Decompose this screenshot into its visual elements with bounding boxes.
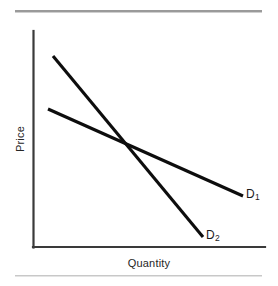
curve-label-d2-base: D [206, 228, 215, 242]
curve-label-d1-base: D [246, 187, 255, 201]
curve-label-d1-subscript: 1 [255, 192, 260, 202]
demand-curve-d2 [53, 56, 203, 237]
curve-label-d2-subscript: 2 [215, 233, 220, 243]
curve-label-d1: D1 [246, 187, 259, 201]
chart-plot-area [0, 0, 278, 286]
curve-label-d2: D2 [206, 228, 219, 242]
demand-curve-d1 [48, 109, 243, 196]
chart-figure: Price Quantity D1 D2 [0, 0, 278, 286]
x-axis-title: Quantity [33, 257, 265, 269]
y-axis-title: Price [14, 107, 26, 171]
bottom-divider-rule [15, 275, 262, 276]
